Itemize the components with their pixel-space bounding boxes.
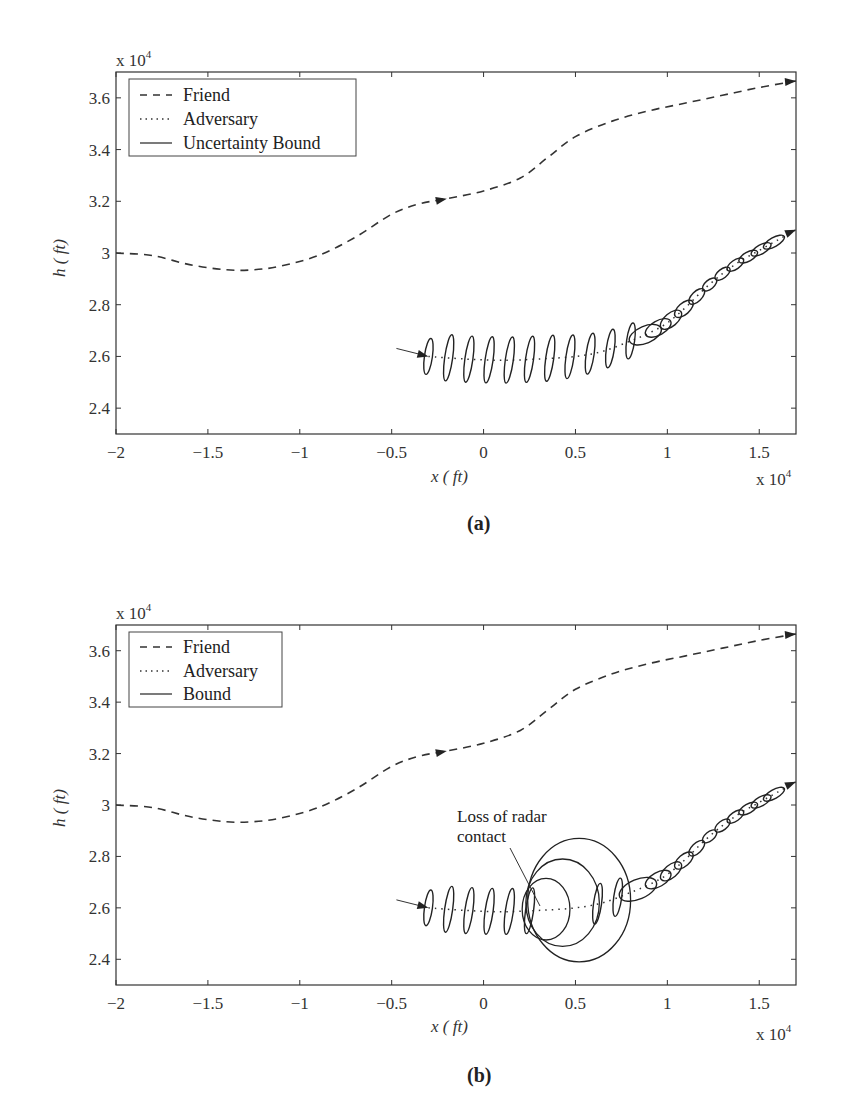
x-tick-label: −1.5	[192, 443, 223, 462]
x-tick-label: 0	[479, 994, 488, 1013]
uncertainty-ellipse	[543, 335, 557, 382]
x-tick-label: 1	[663, 994, 672, 1013]
figure: x 104 −2−1.5−1−0.500.511.5 2.42.62.833.2…	[0, 0, 843, 1108]
x-tick-label: 0	[479, 443, 488, 462]
uncertainty-ellipse	[761, 232, 786, 251]
y-tick-label: 3	[102, 244, 111, 263]
panel-b-caption: (b)	[467, 1064, 491, 1087]
y-tick-label: 2.6	[89, 347, 110, 366]
x-tick-label: −1	[291, 994, 309, 1013]
panel-b-y-multiplier: x 104	[116, 601, 152, 623]
x-tick-label: 1	[663, 443, 672, 462]
panel-a-x-multiplier: x 104	[756, 467, 792, 489]
adversary-entry-arrow	[417, 901, 429, 909]
uncertainty-ellipse	[583, 333, 597, 375]
panel-b-chart: x 104 −2−1.5−1−0.500.511.5 2.42.62.833.2…	[50, 601, 796, 1087]
uncertainty-ellipse	[611, 878, 624, 917]
uncertainty-ellipse	[725, 807, 746, 825]
legend-adversary-label: Adversary	[183, 661, 258, 681]
uncertainty-ellipse	[686, 838, 707, 859]
x-tick-label: 1.5	[749, 443, 770, 462]
legend-bound-label: Uncertainty Bound	[183, 133, 320, 153]
annotation-line-1: Loss of radar	[457, 807, 547, 826]
x-tick-label: −2	[107, 994, 125, 1013]
panel-a-caption: (a)	[467, 512, 490, 535]
growing-uncertainty-ellipse	[528, 838, 631, 961]
adversary-entry-arrow	[417, 350, 429, 358]
uncertainty-ellipse	[624, 322, 637, 359]
adversary-end-arrow	[784, 230, 796, 238]
legend-adversary-label: Adversary	[183, 109, 258, 129]
loss-of-radar-annotation: Loss of radar contact	[457, 807, 547, 906]
uncertainty-ellipse	[700, 276, 719, 294]
uncertainty-ellipse	[700, 827, 719, 845]
friend-direction-arrow	[435, 749, 447, 757]
y-tick-label: 3.2	[89, 192, 110, 211]
y-tick-label: 3.6	[89, 89, 110, 108]
legend-bound-label: Bound	[183, 684, 231, 704]
adversary-trajectory-line	[428, 782, 796, 912]
x-tick-label: 0.5	[565, 994, 586, 1013]
y-tick-label: 2.8	[89, 296, 110, 315]
uncertainty-ellipse	[502, 336, 516, 383]
growing-uncertainty-ellipse	[526, 859, 600, 946]
growing-uncertainty-ellipse	[522, 878, 570, 940]
uncertainty-ellipse	[761, 785, 786, 804]
x-tick-label: 1.5	[749, 994, 770, 1013]
x-tick-label: −1	[291, 443, 309, 462]
adversary-trajectory-line	[428, 230, 796, 361]
panel-b-legend: Friend Adversary Bound	[129, 632, 282, 707]
y-tick-label: 3.6	[89, 642, 110, 661]
panel-b-x-multiplier: x 104	[756, 1022, 792, 1044]
panel-a-y-axis-label: h ( ft)	[50, 239, 69, 277]
y-tick-label: 2.8	[89, 847, 110, 866]
y-tick-label: 2.4	[89, 399, 111, 418]
panel-b-x-axis-label: x ( ft)	[430, 1017, 468, 1036]
panel-a-y-multiplier: x 104	[116, 48, 152, 70]
legend-friend-label: Friend	[183, 637, 230, 657]
x-tick-label: −1.5	[192, 994, 223, 1013]
uncertainty-ellipse	[502, 888, 516, 935]
friend-direction-arrow	[435, 197, 447, 205]
y-tick-label: 3.4	[89, 141, 111, 160]
uncertainty-ellipse	[522, 336, 536, 383]
x-tick-label: −2	[107, 443, 125, 462]
adversary-end-arrow	[784, 782, 796, 790]
y-tick-label: 2.4	[89, 950, 111, 969]
y-tick-label: 2.6	[89, 899, 110, 918]
y-tick-label: 3.2	[89, 745, 110, 764]
y-tick-label: 3.4	[89, 693, 111, 712]
uncertainty-ellipse	[686, 286, 707, 307]
panel-a-chart: x 104 −2−1.5−1−0.500.511.5 2.42.62.833.2…	[50, 48, 796, 535]
x-tick-label: −0.5	[376, 994, 407, 1013]
annotation-line-2: contact	[457, 827, 506, 846]
x-tick-label: 0.5	[565, 443, 586, 462]
y-tick-label: 3	[102, 796, 111, 815]
panel-b-y-axis-label: h ( ft)	[50, 789, 69, 827]
panel-a-legend: Friend Adversary Uncertainty Bound	[129, 79, 356, 156]
uncertainty-ellipse	[725, 255, 746, 274]
x-tick-label: −0.5	[376, 443, 407, 462]
legend-friend-label: Friend	[183, 85, 230, 105]
panel-a-x-axis-label: x ( ft)	[430, 467, 468, 486]
